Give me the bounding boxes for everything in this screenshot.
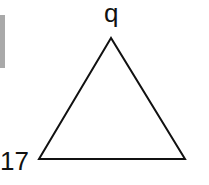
- triangle-shape: [0, 0, 209, 185]
